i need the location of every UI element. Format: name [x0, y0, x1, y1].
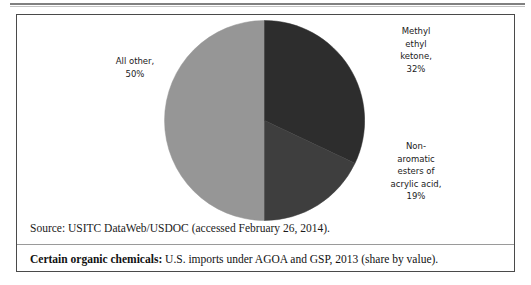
page-top-rule — [10, 3, 525, 5]
figure-root: All other, 50% Methyl ethyl ketone, 32% … — [0, 0, 531, 285]
pie-chart-area: All other, 50% Methyl ethyl ketone, 32% … — [17, 15, 516, 229]
figure-caption: Certain organic chemicals: U.S. imports … — [30, 252, 508, 266]
figure-box: All other, 50% Methyl ethyl ketone, 32% … — [16, 14, 515, 272]
pie-label-all-other: All other, 50% — [96, 55, 174, 80]
pie-slice-all-other[interactable] — [165, 21, 265, 221]
caption-divider — [17, 244, 514, 245]
pie-label-methyl-ethyl-ketone: Methyl ethyl ketone, 32% — [379, 25, 453, 75]
figure-caption-description: U.S. imports under AGOA and GSP, 2013 (s… — [162, 253, 438, 265]
source-note: Source: USITC DataWeb/USDOC (accessed Fe… — [30, 221, 500, 235]
page-top-rule-secondary — [10, 6, 525, 7]
figure-caption-title: Certain organic chemicals: — [30, 253, 162, 265]
pie-chart — [164, 20, 365, 221]
pie-label-acrylic-esters: Non- aromatic esters of acrylic acid, 19… — [373, 140, 459, 203]
